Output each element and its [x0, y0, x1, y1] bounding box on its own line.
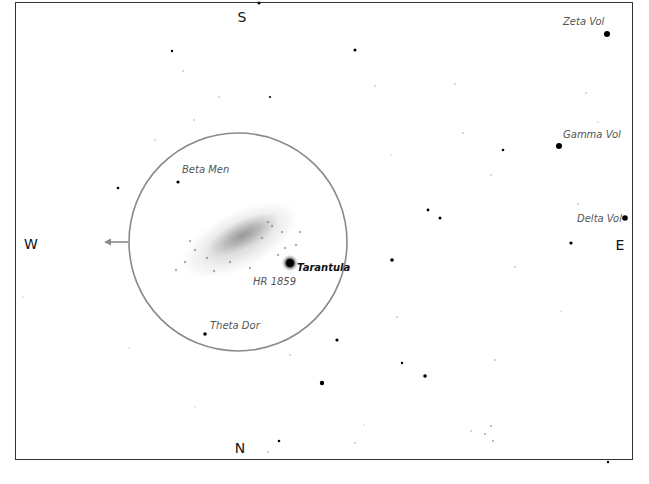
star [390, 154, 391, 155]
star [569, 241, 572, 244]
star [514, 266, 515, 267]
star [604, 31, 610, 37]
label-tarantula: Tarantula [297, 262, 350, 273]
star [374, 85, 375, 86]
star [454, 83, 455, 84]
star [585, 92, 586, 93]
star [117, 187, 120, 190]
star [267, 451, 269, 453]
star [195, 407, 196, 408]
direction-south: S [238, 9, 247, 25]
label-zeta-vol: Zeta Vol [563, 16, 604, 27]
star [490, 174, 491, 175]
label-delta-vol: Delta Vol [577, 213, 622, 224]
star [22, 296, 23, 297]
star [278, 440, 281, 443]
star [289, 354, 290, 355]
star [494, 359, 496, 361]
sky-canvas [0, 0, 649, 484]
star [354, 49, 357, 52]
star [439, 217, 442, 220]
star-chart: S N W E Zeta Vol Gamma Vol Delta Vol Bet… [0, 0, 649, 484]
star [556, 143, 562, 149]
star [560, 310, 561, 311]
star [354, 442, 355, 443]
star [390, 258, 394, 262]
star [470, 430, 471, 431]
star [218, 96, 219, 97]
label-gamma-vol: Gamma Vol [563, 129, 621, 140]
direction-east: E [616, 237, 625, 253]
star [607, 461, 609, 463]
star [427, 209, 430, 212]
star [320, 381, 324, 385]
star [492, 440, 494, 442]
star [577, 203, 578, 204]
star [269, 96, 271, 98]
star [286, 259, 294, 267]
west-arrow-icon [104, 239, 128, 246]
star [423, 374, 427, 378]
stars [22, 2, 627, 464]
star [401, 362, 403, 364]
star [154, 139, 155, 140]
star [335, 338, 338, 341]
star [396, 316, 397, 317]
direction-west: W [24, 236, 38, 252]
star [182, 70, 183, 71]
star [597, 121, 598, 122]
star [128, 347, 129, 348]
star [176, 180, 179, 183]
star [363, 424, 364, 425]
label-theta-dor: Theta Dor [210, 320, 260, 331]
label-hr-1859: HR 1859 [253, 276, 296, 287]
star [258, 2, 261, 5]
star [484, 433, 486, 435]
label-beta-men: Beta Men [182, 164, 229, 175]
star [171, 50, 173, 52]
star [622, 215, 628, 221]
star [502, 149, 505, 152]
star [462, 132, 463, 133]
star [203, 332, 207, 336]
star [490, 425, 492, 427]
direction-north: N [235, 440, 245, 456]
star [193, 119, 194, 120]
